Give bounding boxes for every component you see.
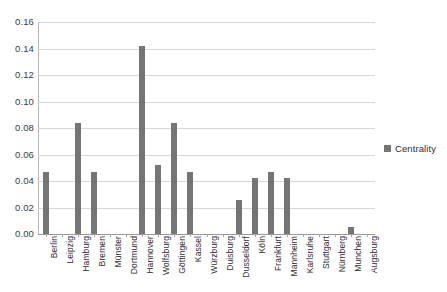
y-axis-tick-label: 0.02 (15, 203, 34, 213)
x-axis-tick-label: Frankfurt (274, 236, 283, 271)
x-axis-tick-label: Kassel (194, 236, 203, 262)
y-axis-tick-labels: 0.160.140.120.100.080.060.040.020.00 (0, 0, 38, 292)
x-axis-tick-label: Stuttgart (322, 236, 331, 269)
legend-square-marker-icon (384, 145, 391, 152)
y-axis-tick-label: 0.14 (15, 44, 34, 54)
bar-dusseldorf (236, 200, 242, 234)
x-axis-tick-label: Munchen (354, 236, 363, 272)
gridline (38, 22, 375, 23)
bar-hannover (139, 46, 145, 234)
y-axis-tick-label: 0.10 (15, 97, 34, 107)
x-axis-tick-label: Würzburg (210, 236, 219, 274)
x-axis-tick-label: Hamburg (82, 236, 91, 272)
x-axis-tick-label: Berlin (50, 236, 59, 258)
x-axis-tick-label: Hannover (146, 236, 155, 274)
bar-berlin (43, 172, 49, 234)
gridline (38, 181, 375, 182)
y-axis-tick-label: 0.16 (15, 17, 34, 27)
bar-mannheim (284, 178, 290, 234)
x-axis-tick-label: Mannheim (290, 236, 299, 277)
plot-area (38, 22, 375, 234)
x-axis-tick-labels: BerlinLeipzigHamburgBremenMünsterDortmun… (38, 236, 375, 292)
x-axis-tick-label: Göttingen (178, 236, 187, 274)
bar-wolfsburg (155, 165, 161, 234)
gridline (38, 208, 375, 209)
bar-k-ln (252, 178, 258, 234)
y-axis-tick-label: 0.12 (15, 70, 34, 80)
chart-legend: Centrality (384, 143, 436, 154)
gridline (38, 102, 375, 103)
x-axis-tick-label: Nürnberg (338, 236, 347, 272)
y-axis-tick-label: 0.06 (15, 150, 34, 160)
bar-hamburg (75, 123, 81, 234)
x-axis-tick-label: Augsburg (370, 236, 379, 273)
x-axis-tick-label: Karlsruhe (306, 236, 315, 273)
bar-frankfurt (268, 172, 274, 234)
x-axis-tick-label: Münster (114, 236, 123, 267)
x-axis-tick-label: Leipzig (66, 236, 75, 264)
x-axis-tick-label: Dusseldorf (242, 236, 251, 278)
bar-kassel (187, 172, 193, 234)
centrality-bar-chart: 0.160.140.120.100.080.060.040.020.00 Ber… (0, 0, 447, 292)
bar-bremen (91, 172, 97, 234)
gridline (38, 128, 375, 129)
bar-munchen (348, 227, 354, 234)
legend-label-centrality: Centrality (395, 143, 436, 154)
y-axis-tick-label: 0.04 (15, 176, 34, 186)
gridline (38, 49, 375, 50)
y-axis-tick-label: 0.08 (15, 123, 34, 133)
x-axis-tick-label: Dortmund (130, 236, 139, 274)
x-axis-tick-label: Bremen (98, 236, 107, 266)
y-axis-tick-label: 0.00 (15, 229, 34, 239)
gridline (38, 75, 375, 76)
bar-g-ttingen (171, 123, 177, 234)
x-axis-tick-label: Köln (258, 236, 267, 253)
x-axis-tick-label: Wolfsburg (162, 236, 171, 275)
gridline (38, 155, 375, 156)
x-axis-tick-label: Duisburg (226, 236, 235, 271)
